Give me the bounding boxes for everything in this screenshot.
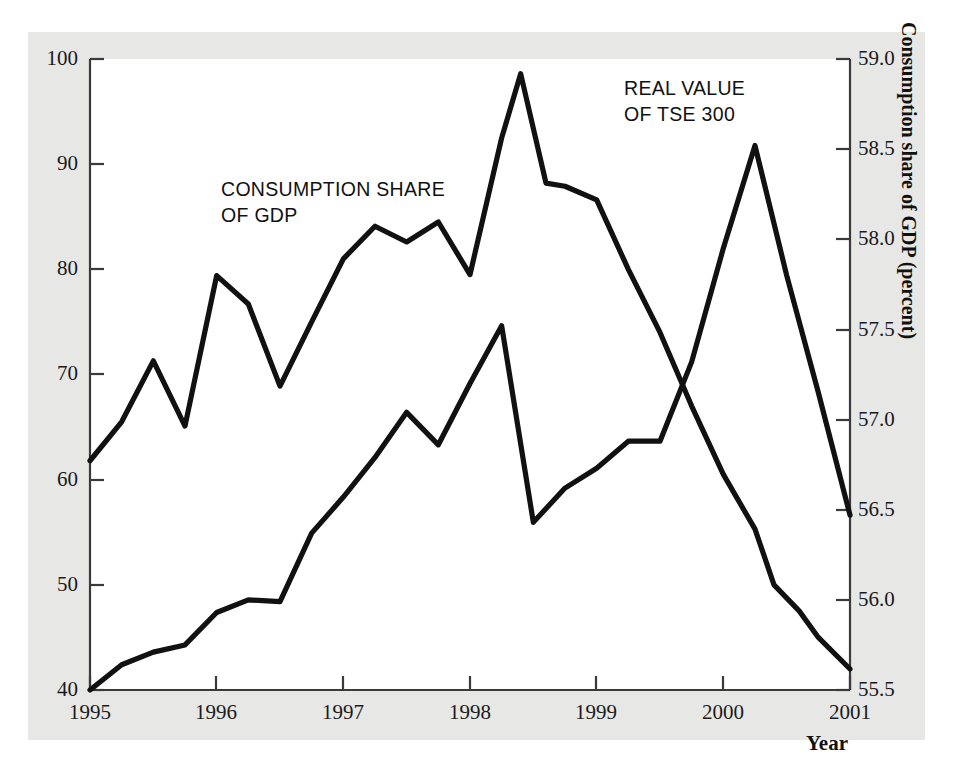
y-right-tick-56-5: 56.5 (858, 497, 895, 522)
y-right-tick-56-0: 56.0 (858, 587, 895, 612)
chart-canvas: Stock market index Consumption share of … (0, 0, 954, 771)
y-left-tick-100: 100 (28, 46, 78, 71)
y-axis-right-title: Consumption share of GDP (percent) (897, 22, 920, 722)
annotation-consumption-share: CONSUMPTION SHARE OF GDP (221, 176, 445, 228)
y-right-tick-57-0: 57.0 (858, 407, 895, 432)
y-right-tick-58-0: 58.0 (858, 226, 895, 251)
x-tick-1998: 1998 (420, 700, 520, 725)
x-tick-2001: 2001 (800, 700, 900, 725)
x-tick-1997: 1997 (293, 700, 393, 725)
y-axis-left-title: Stock market index (0, 0, 17, 56)
y-left-tick-80: 80 (28, 256, 78, 281)
x-axis-title: Year (806, 731, 848, 756)
y-left-tick-40: 40 (28, 677, 78, 702)
x-tick-1995: 1995 (40, 700, 140, 725)
y-right-tick-59-0: 59.0 (858, 46, 895, 71)
y-left-tick-60: 60 (28, 467, 78, 492)
annotation-tse-300: REAL VALUE OF TSE 300 (624, 75, 745, 127)
y-left-tick-70: 70 (28, 361, 78, 386)
y-right-tick-58-5: 58.5 (858, 136, 895, 161)
x-tick-1999: 1999 (546, 700, 646, 725)
chart-svg (0, 0, 954, 771)
y-left-tick-90: 90 (28, 151, 78, 176)
y-right-tick-55-5: 55.5 (858, 677, 895, 702)
x-tick-1996: 1996 (166, 700, 266, 725)
y-right-tick-57-5: 57.5 (858, 317, 895, 342)
x-tick-2000: 2000 (673, 700, 773, 725)
plot-area (90, 59, 850, 690)
y-left-tick-50: 50 (28, 572, 78, 597)
